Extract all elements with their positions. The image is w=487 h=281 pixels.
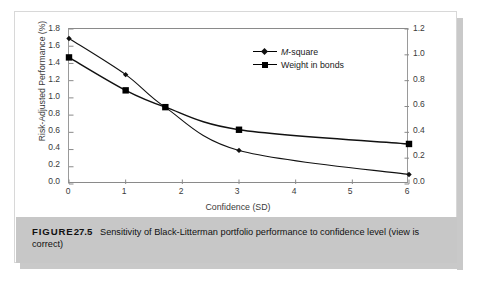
data-point-marker — [162, 104, 168, 110]
data-point-marker — [66, 36, 71, 41]
figure-frame: Risk-Adjusted Performance (%) 1.8 1.6 1.… — [14, 11, 457, 263]
caption-head: FIGURE — [32, 226, 74, 237]
series-line — [69, 38, 409, 174]
legend-label-rest: -square — [288, 47, 318, 57]
chart-legend: M-square Weight in bonds — [253, 45, 344, 71]
data-point-marker — [406, 141, 412, 147]
x-tick-label: 3 — [227, 187, 247, 196]
data-point-marker — [236, 148, 241, 153]
legend-item-m-square: M-square — [253, 45, 344, 58]
y-tick-label: 1.8 — [30, 24, 60, 32]
chart-area: Risk-Adjusted Performance (%) 1.8 1.6 1.… — [15, 12, 456, 217]
caption-number: 27.5 — [74, 226, 93, 237]
y-tick-label: 0.4 — [30, 143, 60, 151]
x-tick-label: 2 — [171, 187, 191, 196]
figure-shadow-right — [457, 18, 463, 270]
figure-shadow-bottom — [20, 263, 463, 269]
y-tick-label: 0.6 — [30, 126, 60, 134]
square-marker-icon — [253, 60, 277, 70]
figure-page: Risk-Adjusted Performance (%) 1.8 1.6 1.… — [0, 0, 487, 281]
x-tick-label: 1 — [114, 187, 134, 196]
legend-item-weight-in-bonds: Weight in bonds — [253, 58, 344, 71]
figure-caption-band: FIGURE27.5 Sensitivity of Black-Litterma… — [16, 217, 457, 263]
y-tick-label: 0.0 — [30, 177, 60, 185]
y-tick-label-right: 0.8 — [413, 75, 443, 83]
x-tick-label: 0 — [58, 187, 78, 196]
x-tick-label: 5 — [340, 187, 360, 196]
y-tick-label-right: 0.0 — [413, 177, 443, 185]
plot-area — [68, 28, 408, 183]
legend-label: M-square — [281, 47, 318, 57]
figure-caption: FIGURE27.5 Sensitivity of Black-Litterma… — [32, 226, 441, 251]
y-tick-label: 1.6 — [30, 41, 60, 49]
x-tick-label: 6 — [397, 187, 417, 196]
y-tick-label: 0.2 — [30, 160, 60, 168]
data-point-marker — [406, 172, 411, 177]
data-point-marker — [236, 127, 242, 133]
y-tick-label: 0.8 — [30, 109, 60, 117]
y-tick-label-right: 0.6 — [413, 100, 443, 108]
y-tick-label: 1.0 — [30, 92, 60, 100]
y-tick-label-right: 0.4 — [413, 126, 443, 134]
y-tick-label-right: 1.2 — [413, 24, 443, 32]
y-tick-label-right: 0.2 — [413, 151, 443, 159]
diamond-marker-icon — [253, 47, 277, 57]
legend-label: Weight in bonds — [281, 60, 344, 70]
data-point-marker — [122, 87, 128, 93]
y-tick-label-right: 1.0 — [413, 49, 443, 57]
x-tick-label: 4 — [284, 187, 304, 196]
x-axis-title: Confidence (SD) — [68, 202, 408, 212]
series-canvas — [69, 29, 409, 184]
y-tick-label: 1.4 — [30, 58, 60, 66]
data-point-marker — [66, 54, 72, 60]
y-tick-label: 1.2 — [30, 75, 60, 83]
